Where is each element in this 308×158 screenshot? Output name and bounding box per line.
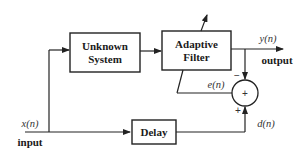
output-signal-symbol: y(n) (259, 33, 277, 45)
adaptive-filter-block: Adaptive Filter (162, 31, 231, 70)
summer-plus-symbol: + (242, 88, 248, 99)
adaptation-arrow (201, 15, 207, 31)
output-label: output (261, 54, 293, 66)
adaptive-filter-label-line2: Filter (183, 51, 209, 63)
unknown-system-block: Unknown System (70, 33, 140, 72)
delay-block: Delay (132, 120, 176, 144)
summing-junction: + (232, 80, 258, 106)
block-diagram: Unknown System Adaptive Filter y(n) outp… (0, 0, 308, 158)
diagram-canvas: Unknown System Adaptive Filter y(n) outp… (0, 0, 308, 158)
error-signal-symbol: e(n) (208, 79, 225, 91)
input-signal-symbol: x(n) (21, 118, 39, 130)
plus-sign: + (235, 105, 241, 116)
delay-label: Delay (141, 126, 168, 138)
adaptive-filter-label-line1: Adaptive (175, 38, 218, 50)
unknown-system-label-line1: Unknown (82, 40, 128, 52)
minus-sign: − (234, 70, 240, 81)
desired-signal-symbol: d(n) (257, 118, 275, 130)
unknown-system-label-line2: System (88, 53, 122, 65)
input-label: input (17, 136, 42, 148)
